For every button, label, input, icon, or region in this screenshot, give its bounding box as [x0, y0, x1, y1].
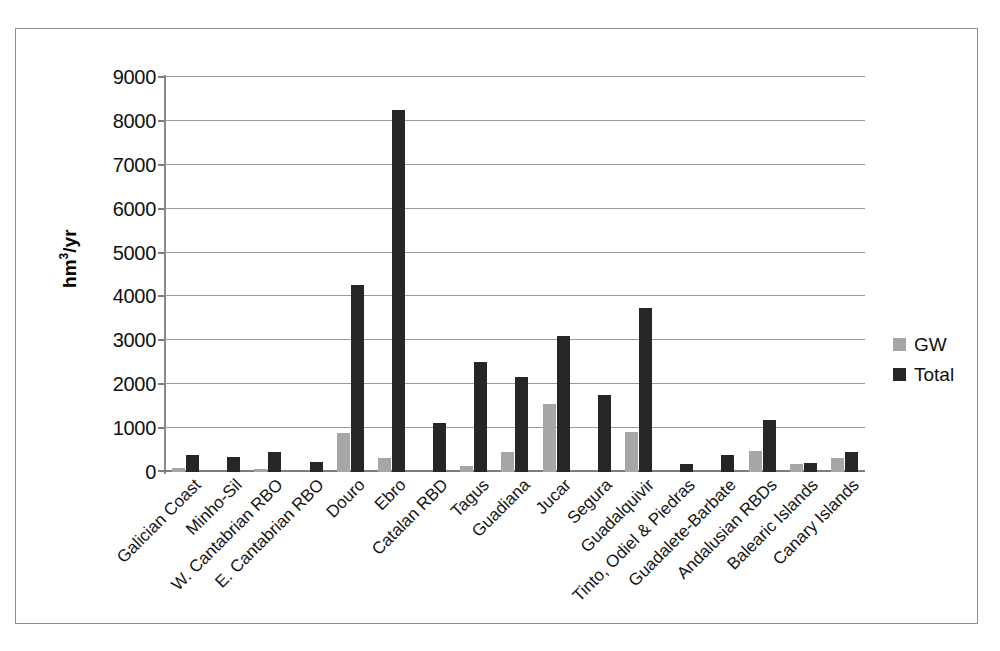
bar-group [577, 77, 618, 472]
y-tick-0 [158, 470, 165, 472]
chart-frame: hm3/yr 010002000300040005000600070008000… [15, 28, 978, 624]
y-tick-5000 [158, 252, 165, 254]
bar-group [206, 77, 247, 472]
y-axis-tick-labels: 0100020003000400050006000700080009000 [94, 77, 156, 472]
y-tick-label-8000: 8000 [96, 111, 156, 131]
bar-total [433, 423, 446, 472]
legend-item-total[interactable]: Total [893, 359, 979, 389]
y-axis-title-post: /yr [59, 229, 80, 252]
legend-swatch-total [893, 368, 906, 381]
bar-gw [172, 468, 185, 472]
y-tick-label-3000: 3000 [96, 330, 156, 350]
y-tick-1000 [158, 427, 165, 429]
y-tick-label-9000: 9000 [96, 67, 156, 87]
y-tick-7000 [158, 164, 165, 166]
chart-legend: GWTotal [893, 329, 979, 389]
legend-item-gw[interactable]: GW [893, 329, 979, 359]
bar-group [536, 77, 577, 472]
y-tick-9000 [158, 76, 165, 78]
bar-group [165, 77, 206, 472]
y-axis-title-sup: 3 [57, 253, 71, 260]
y-tick-label-1000: 1000 [96, 418, 156, 438]
y-tick-label-2000: 2000 [96, 374, 156, 394]
y-tick-label-7000: 7000 [96, 155, 156, 175]
x-axis-tick-labels: Galician CoastMinho-SilW. Cantabrian RBO… [165, 476, 865, 646]
y-tick-8000 [158, 120, 165, 122]
bar-group [412, 77, 453, 472]
y-axis-title: hm3/yr [57, 199, 80, 319]
y-axis-title-pre: hm [59, 259, 80, 288]
y-tick-label-0: 0 [96, 462, 156, 482]
bar-group [659, 77, 700, 472]
bar-group [289, 77, 330, 472]
y-tick-6000 [158, 208, 165, 210]
y-tick-2000 [158, 383, 165, 385]
bar-group [618, 77, 659, 472]
y-tick-label-4000: 4000 [96, 286, 156, 306]
y-tick-label-5000: 5000 [96, 243, 156, 263]
bar-group [453, 77, 494, 472]
legend-swatch-gw [893, 338, 906, 351]
y-tick-3000 [158, 339, 165, 341]
y-tick-label-6000: 6000 [96, 199, 156, 219]
legend-label: GW [914, 335, 947, 354]
y-tick-4000 [158, 295, 165, 297]
legend-label: Total [914, 365, 954, 384]
